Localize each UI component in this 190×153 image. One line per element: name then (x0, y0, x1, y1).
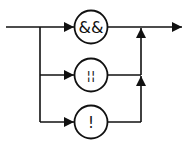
operator-not-node: ! (75, 106, 108, 139)
operator-and-label: && (79, 18, 104, 37)
operator-not-label: ! (88, 114, 94, 132)
operator-or-node: ¦¦ (75, 59, 108, 92)
operator-and-node: && (75, 11, 108, 44)
syntax-diagram: && ¦¦ ! (0, 0, 190, 153)
operator-or-label: ¦¦ (87, 68, 96, 83)
